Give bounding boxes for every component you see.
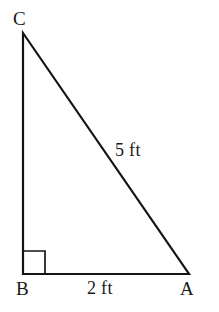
side-length-label-ab: 2 ft (87, 279, 113, 297)
right-angle-marker-icon (23, 251, 45, 273)
right-triangle-diagram: C B A 2 ft 5 ft (0, 0, 219, 312)
vertex-label-b: B (16, 279, 29, 298)
side-length-label-ca: 5 ft (115, 141, 141, 159)
triangle-outline (23, 33, 189, 274)
vertex-label-a: A (180, 279, 194, 298)
vertex-label-c: C (13, 9, 26, 28)
triangle-drawing (0, 0, 219, 312)
